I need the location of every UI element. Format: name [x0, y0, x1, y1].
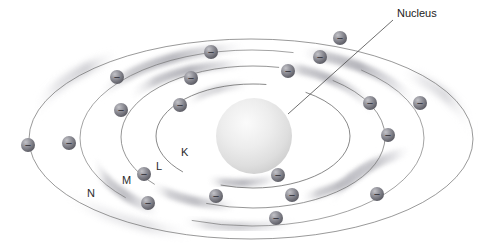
- electron-charge-icon: −: [417, 97, 423, 109]
- electron-charge-icon: −: [289, 189, 295, 201]
- electron-l-8: −: [114, 103, 128, 117]
- shell-label-k: K: [181, 146, 189, 158]
- electron-charge-icon: −: [337, 32, 343, 44]
- electron-charge-icon: −: [25, 139, 31, 151]
- glow-l-lower-left: [150, 185, 240, 206]
- electron-charge-icon: −: [385, 129, 391, 141]
- electron-l-6: −: [209, 189, 223, 203]
- electron-n-19: −: [413, 96, 427, 110]
- bohr-model-svg: −−−−−−−−−−−−−−−−−−−− Nucleus K L M N: [0, 0, 491, 247]
- nucleus-label: Nucleus: [397, 7, 437, 19]
- electron-charge-icon: −: [177, 99, 183, 111]
- nucleus-sphere: [216, 98, 292, 174]
- electron-charge-icon: −: [367, 97, 373, 109]
- electron-l-4: −: [363, 96, 377, 110]
- electron-charge-icon: −: [208, 46, 214, 58]
- electron-l-7: −: [137, 167, 151, 181]
- electron-m-16: −: [141, 196, 155, 210]
- electron-n-18: −: [62, 136, 76, 150]
- electron-charge-icon: −: [66, 137, 72, 149]
- electron-charge-icon: −: [213, 190, 219, 202]
- electron-m-12: −: [333, 31, 347, 45]
- electron-charge-icon: −: [317, 51, 323, 63]
- electron-charge-icon: −: [141, 168, 147, 180]
- electron-charge-icon: −: [118, 104, 124, 116]
- electron-m-13: −: [381, 128, 395, 142]
- glow-k-lower: [206, 177, 282, 183]
- electron-charge-icon: −: [275, 169, 281, 181]
- electron-charge-icon: −: [114, 71, 120, 83]
- electron-m-10: −: [110, 70, 124, 84]
- electron-m-11: −: [204, 45, 218, 59]
- electron-l-5: −: [285, 188, 299, 202]
- atomic-model-figure: −−−−−−−−−−−−−−−−−−−− Nucleus K L M N: [0, 0, 491, 247]
- electron-n-17: −: [21, 138, 35, 152]
- electron-m-14: −: [370, 187, 384, 201]
- electron-m-15: −: [269, 211, 283, 225]
- electron-charge-icon: −: [285, 65, 291, 77]
- glow-l-upper-right: [280, 66, 378, 120]
- shell-label-l: L: [156, 160, 162, 172]
- electron-l-9: −: [313, 50, 327, 64]
- electron-k-1: −: [271, 168, 285, 182]
- electron-charge-icon: −: [145, 197, 151, 209]
- electron-l-3: −: [281, 64, 295, 78]
- shell-label-m: M: [122, 174, 131, 186]
- shell-label-n: N: [87, 187, 95, 199]
- electron-charge-icon: −: [374, 188, 380, 200]
- electron-l-2: −: [184, 71, 198, 85]
- electron-k-0: −: [173, 98, 187, 112]
- electron-charge-icon: −: [188, 72, 194, 84]
- electron-charge-icon: −: [273, 212, 279, 224]
